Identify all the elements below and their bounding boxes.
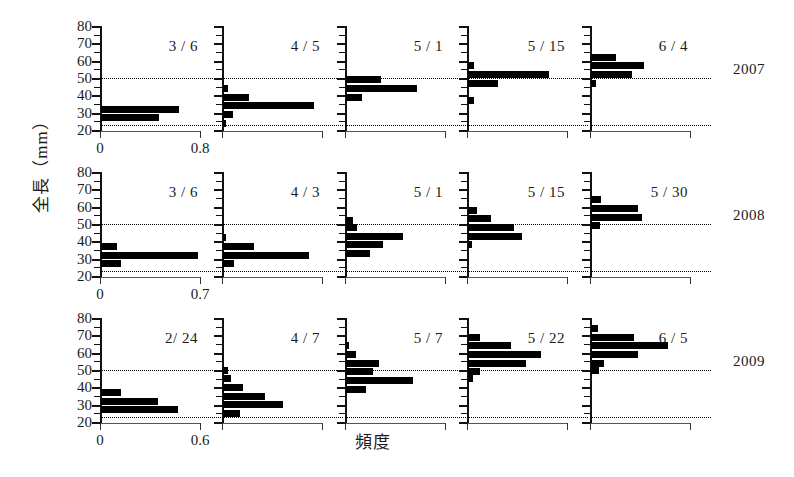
y-tick-45 xyxy=(461,379,467,380)
year-label-2009: 2009 xyxy=(733,353,765,370)
reference-line-50mm xyxy=(222,78,343,79)
y-tick-50 xyxy=(214,370,222,372)
x-tick-1 xyxy=(690,131,691,138)
y-tick-20 xyxy=(92,130,100,132)
bar xyxy=(468,71,549,78)
y-tick-60 xyxy=(92,207,100,209)
bar xyxy=(223,94,249,101)
bar xyxy=(468,62,474,69)
y-tick-35 xyxy=(216,104,222,105)
y-tick-40 xyxy=(337,387,345,389)
y-tick-65 xyxy=(94,198,100,199)
bar xyxy=(468,80,498,87)
y-tick-80 xyxy=(582,172,590,174)
y-tick-30 xyxy=(582,405,590,407)
bar xyxy=(223,367,228,374)
y-tick-45 xyxy=(216,379,222,380)
y-tick-20 xyxy=(214,276,222,278)
bar xyxy=(101,398,158,405)
x-axis-label: 頻度 xyxy=(355,428,391,453)
y-tick-75 xyxy=(94,181,100,182)
reference-line-50mm xyxy=(100,370,221,371)
x-axis-line xyxy=(100,423,200,424)
y-ticklabel-20: 20 xyxy=(77,415,92,430)
y-tick-75 xyxy=(584,327,590,328)
year-label-2007: 2007 xyxy=(733,61,765,78)
bar xyxy=(591,54,616,61)
y-tick-80 xyxy=(92,26,100,28)
panel-2008-3: 5 / 1 xyxy=(345,172,445,276)
y-tick-20 xyxy=(337,422,345,424)
y-tick-55 xyxy=(94,215,100,216)
y-tick-80 xyxy=(582,26,590,28)
y-tick-65 xyxy=(461,344,467,345)
y-tick-30 xyxy=(214,113,222,115)
y-tick-55 xyxy=(216,361,222,362)
bar xyxy=(346,360,379,367)
y-tick-30 xyxy=(459,113,467,115)
y-tick-60 xyxy=(337,207,345,209)
x-tick-1 xyxy=(567,277,568,284)
bar xyxy=(591,367,599,374)
y-tick-55 xyxy=(584,69,590,70)
panel-date-label: 5 / 1 xyxy=(414,184,443,201)
y-tick-50 xyxy=(214,224,222,226)
x-ticklabel-0: 0 xyxy=(96,432,104,449)
y-tick-35 xyxy=(461,396,467,397)
y-tick-80 xyxy=(459,318,467,320)
panel-date-label: 3 / 6 xyxy=(169,38,198,55)
y-tick-55 xyxy=(339,69,345,70)
bar xyxy=(223,375,231,382)
y-tick-40 xyxy=(459,387,467,389)
y-tick-40 xyxy=(214,241,222,243)
x-tick-1 xyxy=(322,423,323,430)
y-tick-30 xyxy=(582,113,590,115)
y-tick-25 xyxy=(216,121,222,122)
x-axis-line xyxy=(100,277,200,278)
y-tick-60 xyxy=(92,353,100,355)
y-tick-30 xyxy=(337,405,345,407)
x-axis-line xyxy=(590,423,690,424)
y-tick-70 xyxy=(92,335,100,337)
y-tick-50 xyxy=(92,224,100,226)
y-tick-40 xyxy=(337,95,345,97)
bar xyxy=(591,351,638,358)
y-tick-75 xyxy=(216,35,222,36)
y-ticklabel-20: 20 xyxy=(77,123,92,138)
x-tick-0 xyxy=(345,423,346,430)
reference-line-23mm xyxy=(345,271,466,272)
y-tick-50 xyxy=(459,224,467,226)
y-tick-65 xyxy=(584,52,590,53)
y-tick-45 xyxy=(461,87,467,88)
y-tick-40 xyxy=(214,387,222,389)
y-tick-75 xyxy=(94,35,100,36)
y-tick-75 xyxy=(339,181,345,182)
x-tick-0 xyxy=(222,423,223,430)
y-tick-65 xyxy=(461,52,467,53)
y-tick-80 xyxy=(337,172,345,174)
y-tick-35 xyxy=(339,104,345,105)
y-tick-20 xyxy=(92,422,100,424)
y-tick-40 xyxy=(214,95,222,97)
y-tick-35 xyxy=(94,104,100,105)
y-tick-25 xyxy=(94,267,100,268)
y-tick-70 xyxy=(459,189,467,191)
reference-line-23mm xyxy=(345,417,466,418)
y-tick-40 xyxy=(582,241,590,243)
y-tick-70 xyxy=(214,43,222,45)
reference-line-50mm xyxy=(222,370,343,371)
bar xyxy=(346,250,370,257)
y-tick-60 xyxy=(214,61,222,63)
y-tick-45 xyxy=(339,233,345,234)
y-ticklabel-50: 50 xyxy=(77,217,92,232)
bar xyxy=(346,368,373,375)
x-tick-0 xyxy=(590,131,591,138)
panel-2009-1: 8070605040302000.62/ 24 xyxy=(100,318,200,422)
y-tick-60 xyxy=(459,61,467,63)
y-tick-75 xyxy=(461,35,467,36)
y-tick-75 xyxy=(584,35,590,36)
bar xyxy=(101,243,117,250)
y-tick-55 xyxy=(584,215,590,216)
y-tick-25 xyxy=(461,121,467,122)
y-tick-40 xyxy=(459,95,467,97)
